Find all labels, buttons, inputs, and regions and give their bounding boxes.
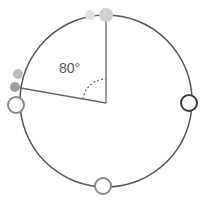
angle-label: 80° [59, 60, 80, 76]
circle-diagram [0, 0, 212, 206]
angle-arc [83, 79, 106, 99]
left-dot [10, 82, 20, 92]
top-large-dot [99, 8, 113, 22]
right-open-marker [181, 95, 197, 111]
bottom-open-marker [95, 178, 111, 194]
angled-radius-line [15, 87, 106, 103]
top-small-dot [85, 10, 95, 20]
upper-left-dot [13, 69, 23, 79]
left-open-marker [8, 97, 24, 113]
